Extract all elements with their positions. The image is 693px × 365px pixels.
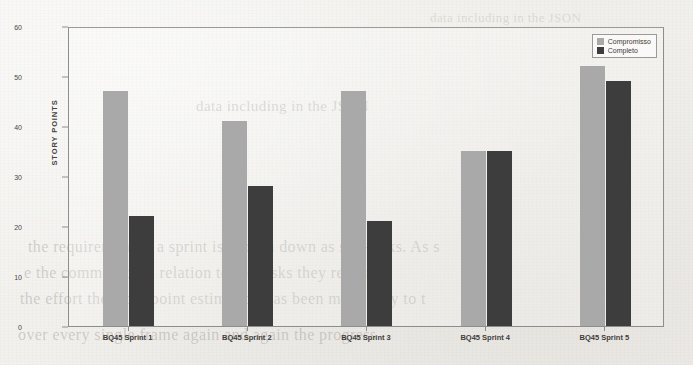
y-tick-label-10: 10 <box>0 274 22 281</box>
bar-compromisso <box>222 121 247 326</box>
bar-group <box>546 66 665 326</box>
bar-group <box>307 91 426 326</box>
x-tick-mark <box>604 327 605 331</box>
y-tick-label-60: 60 <box>0 24 22 31</box>
x-tick-mark <box>485 327 486 331</box>
legend-swatch-icon <box>597 47 604 54</box>
bar-compromisso <box>341 91 366 326</box>
x-tick-mark <box>247 327 248 331</box>
bar-compromisso <box>580 66 605 326</box>
legend-item-label: Completo <box>608 47 638 54</box>
y-tick-label-0: 0 <box>0 324 22 331</box>
x-tick-mark <box>128 327 129 331</box>
bar-compromisso <box>461 151 486 326</box>
plot-area <box>69 28 663 326</box>
legend-item-label: Compromisso <box>608 38 651 45</box>
legend-item[interactable]: Compromisso <box>597 38 651 45</box>
y-tick-label-40: 40 <box>0 124 22 131</box>
bar-completo <box>606 81 631 326</box>
y-tick-label-30: 30 <box>0 174 22 181</box>
x-tick-label: BQ45 Sprint 5 <box>534 333 674 342</box>
chart-legend: CompromissoCompleto <box>592 34 657 58</box>
bar-group <box>188 121 307 326</box>
bar-completo <box>248 186 273 326</box>
y-tick-label-50: 50 <box>0 74 22 81</box>
bar-group <box>427 151 546 326</box>
bar-completo <box>487 151 512 326</box>
x-tick-mark <box>366 327 367 331</box>
bar-completo <box>367 221 392 326</box>
bar-completo <box>129 216 154 326</box>
bar-group <box>69 91 188 326</box>
legend-swatch-icon <box>597 38 604 45</box>
y-tick-label-20: 20 <box>0 224 22 231</box>
legend-item[interactable]: Completo <box>597 47 651 54</box>
bar-compromisso <box>103 91 128 326</box>
bar-chart: STORY POINTS 0102030405060 CompromissoCo… <box>0 0 693 365</box>
y-axis-title: STORY POINTS <box>50 73 59 193</box>
plot-frame: CompromissoCompleto <box>68 27 664 327</box>
